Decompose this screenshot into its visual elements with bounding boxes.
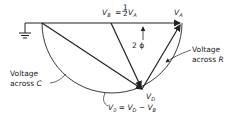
svg-text:=: =: [115, 8, 121, 17]
svg-text:VA: VA: [128, 8, 137, 18]
vo-phasor: [111, 23, 141, 87]
ground-icon: [19, 23, 42, 38]
va-label: VA: [174, 8, 183, 18]
svg-text:across C: across C: [10, 79, 42, 88]
vd-label: VD: [146, 92, 155, 102]
svg-text:V0 = VD − VB: V0 = VD − VB: [108, 103, 157, 113]
phasor-diagram: 2 ϕ VB = 1 2 VA VA Voltage across R Volt…: [0, 0, 240, 129]
svg-text:Voltage: Voltage: [192, 45, 221, 54]
voltage-across-c-label: Voltage across C: [10, 69, 66, 88]
svg-text:Voltage: Voltage: [10, 69, 39, 78]
svg-text:VB: VB: [102, 8, 111, 18]
svg-text:across R: across R: [192, 55, 224, 64]
angle-label: 2 ϕ: [132, 41, 144, 50]
vb-label: VB = 1 2 VA: [102, 3, 137, 18]
